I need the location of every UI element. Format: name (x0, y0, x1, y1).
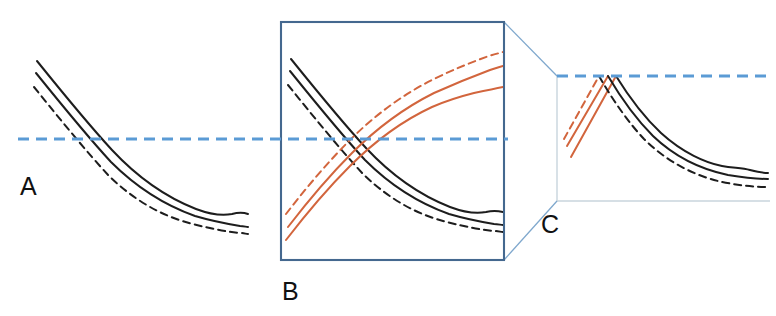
curve-peak-decay-solid-upper-c (616, 76, 768, 173)
panel-label-a: A (20, 172, 37, 200)
curve-rise-solid-upper-b (288, 66, 503, 227)
panel-label-b: B (282, 277, 299, 305)
leader-line-top (504, 22, 557, 76)
curve-decay-solid-upper-b (291, 59, 503, 213)
curve-rise-solid-upper-c (567, 76, 608, 146)
panel-b-curves (286, 52, 503, 240)
curve-peak-decay-solid-lower-c (608, 76, 768, 179)
curve-rise-solid-lower-b (286, 87, 503, 240)
panel-c-curves (564, 76, 768, 187)
figure-canvas: A B C (0, 0, 776, 316)
panel-label-c: C (541, 210, 559, 238)
curve-rise-solid-lower-c (571, 76, 616, 157)
curve-decay-solid-lower-a (36, 73, 248, 227)
curve-peak-decay-dashed-c (599, 76, 768, 187)
figure-container: A B C (0, 0, 776, 316)
panel-a-curves (34, 61, 248, 234)
curve-rise-dashed-c (564, 76, 599, 139)
panel-b-box (281, 22, 504, 260)
